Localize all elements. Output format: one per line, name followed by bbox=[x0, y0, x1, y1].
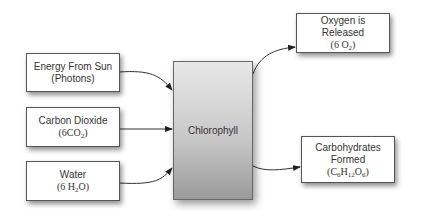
energy-label: Energy From Sun bbox=[34, 61, 112, 73]
co2-label: Carbon Dioxide bbox=[39, 115, 108, 127]
arrow-chlorophyll-to-oxygen bbox=[253, 47, 295, 74]
oxygen-formula: (6 O2) bbox=[331, 39, 356, 51]
output-box-carbohydrates: Carbohydrates Formed (C6H12O6) bbox=[301, 136, 395, 183]
water-formula: (6 H2O) bbox=[57, 181, 89, 193]
input-box-energy: Energy From Sun (Photons) bbox=[26, 53, 120, 92]
oxygen-label-line2: Released bbox=[322, 27, 364, 39]
co2-formula: (6CO2) bbox=[58, 127, 87, 139]
arrow-water-to-chlorophyll bbox=[119, 168, 172, 183]
chlorophyll-box: Chlorophyll bbox=[173, 61, 253, 200]
water-label: Water bbox=[60, 169, 86, 181]
carbs-label-line1: Carbohydrates bbox=[315, 142, 381, 154]
output-box-oxygen: Oxygen is Released (6 O2) bbox=[296, 13, 390, 53]
energy-sublabel: (Photons) bbox=[51, 73, 94, 85]
input-box-carbon-dioxide: Carbon Dioxide (6CO2) bbox=[26, 107, 120, 147]
input-box-water: Water (6 H2O) bbox=[26, 161, 120, 201]
chlorophyll-label: Chlorophyll bbox=[188, 125, 238, 136]
oxygen-label-line1: Oxygen is bbox=[321, 15, 365, 27]
carbs-label-line2: Formed bbox=[331, 154, 365, 166]
arrow-energy-to-chlorophyll bbox=[119, 72, 172, 90]
arrow-chlorophyll-to-carbs bbox=[253, 166, 300, 170]
carbs-formula: (C6H12O6) bbox=[327, 166, 369, 178]
